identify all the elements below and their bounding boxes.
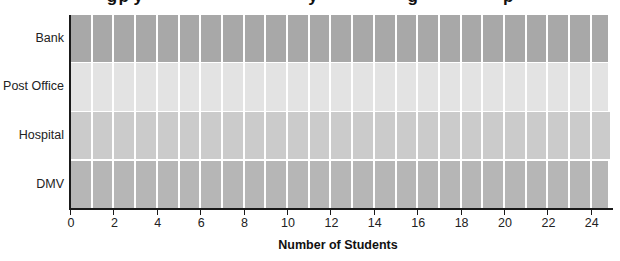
- segment-divider: [481, 161, 483, 208]
- segment-divider: [178, 161, 180, 208]
- segment-divider: [525, 112, 527, 159]
- segment-divider: [264, 63, 266, 111]
- segment-divider: [351, 161, 353, 208]
- segment-divider: [112, 63, 114, 111]
- segment-divider: [416, 63, 418, 111]
- category-label: DMV: [36, 177, 64, 191]
- category-label: Bank: [36, 31, 65, 45]
- segment-divider: [568, 63, 570, 111]
- segment-divider: [373, 63, 375, 111]
- segment-divider: [91, 63, 93, 111]
- segment-divider: [199, 161, 201, 208]
- segment-divider: [286, 161, 288, 208]
- bar-post-office: [70, 63, 608, 111]
- x-tick-label: 14: [360, 216, 390, 230]
- segment-divider: [395, 161, 397, 208]
- segment-divider: [568, 15, 570, 62]
- segment-divider: [351, 112, 353, 159]
- segment-divider: [481, 15, 483, 62]
- segment-divider: [308, 15, 310, 62]
- category-label: Post Office: [3, 79, 64, 93]
- segment-divider: [134, 161, 136, 208]
- segment-divider: [395, 112, 397, 159]
- x-tick-label: 12: [316, 216, 346, 230]
- segment-divider: [590, 63, 592, 111]
- segment-divider: [112, 112, 114, 159]
- segment-divider: [264, 15, 266, 62]
- segment-divider: [460, 15, 462, 62]
- segment-divider: [395, 63, 397, 111]
- segment-divider: [134, 112, 136, 159]
- x-tick: [374, 210, 375, 215]
- segment-divider: [178, 112, 180, 159]
- segment-divider: [221, 15, 223, 62]
- x-tick-label: 24: [577, 216, 607, 230]
- segment-divider: [243, 15, 245, 62]
- segment-divider: [286, 15, 288, 62]
- segment-divider: [373, 15, 375, 62]
- x-tick: [461, 210, 462, 215]
- segment-divider: [395, 15, 397, 62]
- segment-divider: [243, 112, 245, 159]
- segment-divider: [286, 63, 288, 111]
- segment-divider: [112, 161, 114, 208]
- segment-divider: [308, 112, 310, 159]
- segment-divider: [351, 63, 353, 111]
- segment-divider: [481, 112, 483, 159]
- segment-divider: [590, 112, 592, 159]
- segment-divider: [438, 161, 440, 208]
- segment-divider: [199, 63, 201, 111]
- segment-divider: [525, 63, 527, 111]
- x-tick: [244, 210, 245, 215]
- segment-divider: [590, 15, 592, 62]
- bar-dmv: [70, 161, 608, 208]
- segment-divider: [568, 161, 570, 208]
- x-tick: [417, 210, 418, 215]
- segment-divider: [373, 112, 375, 159]
- segment-divider: [416, 112, 418, 159]
- x-tick: [591, 210, 592, 215]
- segment-divider: [416, 15, 418, 62]
- segment-divider: [438, 63, 440, 111]
- segment-divider: [503, 112, 505, 159]
- segment-divider: [112, 15, 114, 62]
- segment-divider: [221, 112, 223, 159]
- segment-divider: [546, 63, 548, 111]
- x-tick-label: 0: [56, 216, 86, 230]
- x-tick: [113, 210, 114, 215]
- segment-divider: [134, 15, 136, 62]
- x-tick: [200, 210, 201, 215]
- segment-divider: [329, 112, 331, 159]
- x-tick-label: 10: [273, 216, 303, 230]
- x-tick-label: 8: [230, 216, 260, 230]
- segment-divider: [243, 63, 245, 111]
- segment-divider: [590, 161, 592, 208]
- segment-divider: [91, 15, 93, 62]
- segment-divider: [156, 63, 158, 111]
- x-tick: [70, 210, 71, 215]
- segment-divider: [243, 161, 245, 208]
- x-axis-label: Number of Students: [238, 238, 438, 252]
- chart-title-fragment: g p y y g p: [0, 0, 620, 7]
- x-tick: [504, 210, 505, 215]
- segment-divider: [546, 15, 548, 62]
- segment-divider: [199, 15, 201, 62]
- segment-divider: [264, 112, 266, 159]
- segment-divider: [308, 63, 310, 111]
- segment-divider: [156, 112, 158, 159]
- x-tick: [547, 210, 548, 215]
- bar-hospital: [70, 112, 610, 159]
- segment-divider: [156, 15, 158, 62]
- x-tick-label: 4: [143, 216, 173, 230]
- segment-divider: [221, 161, 223, 208]
- segment-divider: [178, 63, 180, 111]
- segment-divider: [503, 63, 505, 111]
- segment-divider: [221, 63, 223, 111]
- segment-divider: [373, 161, 375, 208]
- segment-divider: [134, 63, 136, 111]
- segment-divider: [178, 15, 180, 62]
- x-tick: [157, 210, 158, 215]
- segment-divider: [329, 15, 331, 62]
- segment-divider: [568, 112, 570, 159]
- x-tick-label: 18: [447, 216, 477, 230]
